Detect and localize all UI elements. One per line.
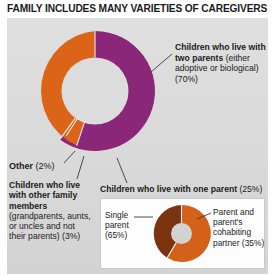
donut-hole [62, 58, 129, 125]
inset-donut-hole [171, 223, 192, 244]
inset-donut-chart [151, 203, 212, 264]
inset-label-single-parent: Single parent (65%) [105, 210, 149, 241]
inset-panel: Single parent (65%) Parent and parent's … [100, 198, 265, 269]
label-other-family: Children who live with other family memb… [9, 180, 93, 242]
page-title: FAMILY INCLUDES MANY VARIETIES OF CAREGI… [7, 3, 272, 14]
inset-donut-svg [151, 203, 212, 264]
main-donut-svg [33, 29, 157, 153]
label-two-parents: Children who live with two parents (eith… [175, 42, 273, 84]
label-one-parent: Children who live with one parent (25%) [100, 184, 262, 194]
main-donut-chart [33, 29, 157, 153]
label-other-sub: (2%) [36, 161, 55, 171]
label-two-parents-bold: Children who live with two parents [175, 42, 266, 63]
label-other: Other (2%) [9, 161, 55, 172]
inset-label-cohabiting: Parent and parent's cohabiting partner (… [213, 207, 265, 248]
label-one-parent-sub: (25%) [239, 184, 262, 194]
label-one-parent-bold: Children who live with one parent [100, 184, 237, 194]
label-other-family-bold: Children who live with other family memb… [9, 180, 80, 211]
label-other-bold: Other [9, 161, 33, 171]
label-other-family-sub: (grandparents, aunts, or uncles and not … [9, 211, 91, 242]
infographic-page: FAMILY INCLUDES MANY VARIETIES OF CAREGI… [0, 0, 275, 276]
